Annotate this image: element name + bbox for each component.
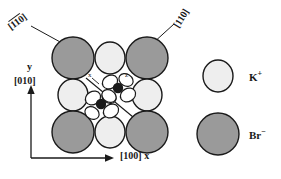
- ion-bromide: [126, 37, 168, 79]
- x-axis-arrowhead: [105, 154, 114, 161]
- y-axis-index: [010]: [14, 76, 36, 86]
- local-x-axis-label: x: [88, 72, 92, 79]
- legend-label-potassium-text: K: [249, 71, 258, 83]
- ion-potassium: [58, 79, 88, 111]
- legend-charge-bromide: −: [261, 127, 266, 136]
- ion-bromide: [126, 111, 168, 153]
- ion-potassium: [95, 116, 125, 148]
- x-axis-label: [100] x: [120, 151, 149, 161]
- local-z-axis-label: z: [125, 72, 128, 79]
- leader-line-left: [31, 26, 62, 43]
- legend-marker-potassium: [203, 60, 233, 92]
- legend-label-bromide-text: Br: [249, 129, 261, 141]
- legend-charge-potassium: +: [258, 69, 263, 78]
- y-axis-arrowhead: [27, 85, 34, 94]
- adsorbate-atom: [113, 83, 123, 93]
- kbr-surface-diagram: [110] [110] y [010] [100] x x z K+ Br−: [0, 0, 281, 179]
- legend-label-potassium: K+: [249, 70, 262, 83]
- local-x-axis-tick: [92, 78, 99, 84]
- legend-label-bromide: Br−: [249, 128, 266, 141]
- x-axis-symbol: x: [144, 150, 149, 161]
- adsorbate-atom: [96, 99, 106, 109]
- y-axis-symbol: y: [27, 62, 32, 72]
- ion-potassium: [132, 79, 162, 111]
- ion-potassium: [95, 42, 125, 74]
- legend-marker-bromide: [197, 113, 239, 155]
- x-axis-index: [100]: [120, 150, 142, 161]
